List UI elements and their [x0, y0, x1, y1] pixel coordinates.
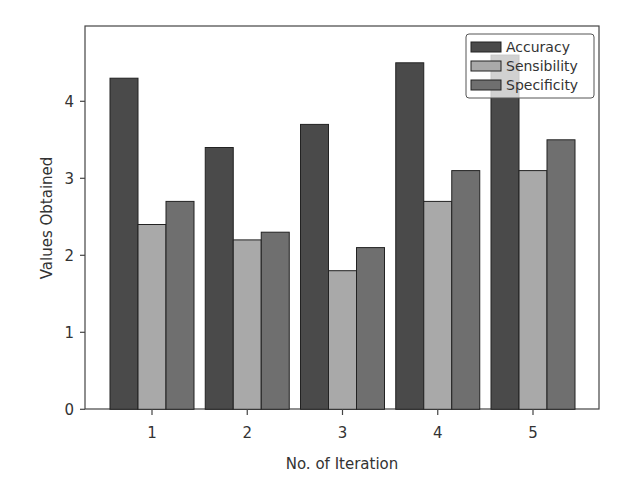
y-tick-label: 1 — [64, 324, 74, 342]
x-tick-label: 1 — [147, 424, 157, 442]
x-axis-label: No. of Iteration — [286, 455, 399, 473]
legend-swatch-accuracy — [471, 42, 501, 52]
bar-accuracy-3 — [301, 124, 329, 409]
bar-sensibility-3 — [329, 271, 357, 410]
legend-label-specificity: Specificity — [506, 77, 578, 93]
bar-specificity-5 — [547, 140, 575, 410]
bar-sensibility-2 — [233, 240, 261, 409]
bar-sensibility-5 — [519, 171, 547, 410]
bar-specificity-4 — [452, 171, 480, 410]
legend-swatch-specificity — [471, 80, 501, 90]
legend: AccuracySensibilitySpecificity — [466, 34, 594, 98]
y-tick-label: 3 — [64, 170, 74, 188]
x-tick-label: 3 — [338, 424, 348, 442]
bar-accuracy-2 — [205, 148, 233, 410]
bar-accuracy-1 — [110, 78, 138, 409]
y-axis: 01234 — [64, 93, 85, 419]
y-tick-label: 0 — [64, 401, 74, 419]
x-tick-label: 5 — [528, 424, 538, 442]
y-axis-label: Values Obtained — [38, 157, 56, 280]
bar-sensibility-1 — [138, 225, 166, 410]
bar-specificity-3 — [357, 248, 385, 410]
bar-specificity-2 — [261, 232, 289, 409]
bar-accuracy-4 — [396, 63, 424, 410]
bar-accuracy-5 — [491, 55, 519, 409]
legend-swatch-sensibility — [471, 61, 501, 71]
y-tick-label: 2 — [64, 247, 74, 265]
legend-label-sensibility: Sensibility — [506, 58, 578, 74]
x-tick-label: 4 — [433, 424, 443, 442]
x-axis: 12345 — [147, 409, 538, 442]
legend-label-accuracy: Accuracy — [506, 39, 570, 55]
bar-chart: 01234 12345 Values Obtained No. of Itera… — [0, 0, 632, 501]
x-tick-label: 2 — [242, 424, 252, 442]
bar-specificity-1 — [166, 201, 194, 409]
bar-sensibility-4 — [424, 201, 452, 409]
y-tick-label: 4 — [64, 93, 74, 111]
